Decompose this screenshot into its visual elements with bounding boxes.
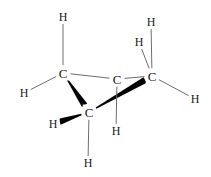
- atom-label-c-right: C: [146, 69, 159, 84]
- bond-cright-hright: [159, 80, 189, 96]
- bond-cright-htop: [151, 29, 152, 68]
- atom-label-c-bottom: C: [83, 105, 96, 120]
- atom-label-h-lower-left: H: [47, 117, 60, 131]
- bond-cright-hinner: [141, 49, 149, 69]
- molecule-diagram: CCCCHHHHHHHH: [0, 0, 211, 177]
- bond-cmiddle-cright: [125, 77, 144, 79]
- bond-layer: [0, 0, 211, 177]
- atom-label-h-right: H: [189, 92, 202, 106]
- bond-cbottom-hlower: [59, 114, 82, 125]
- atom-label-h-inner: H: [133, 35, 146, 49]
- atom-label-h-top-right: H: [145, 15, 158, 29]
- atom-label-h-bottom: H: [82, 156, 95, 170]
- bond-cmiddle-hlowermid: [116, 87, 117, 124]
- bond-cleft-cbottom: [67, 79, 87, 107]
- atom-label-h-top-left: H: [57, 10, 70, 24]
- atom-label-c-left: C: [57, 66, 70, 81]
- bond-cbottom-hbottom: [88, 120, 89, 156]
- atom-label-c-middle: C: [111, 72, 124, 87]
- atom-label-h-left: H: [18, 86, 31, 100]
- atom-label-h-lower-mid: H: [110, 124, 123, 138]
- bond-cleft-cmiddle: [71, 74, 109, 78]
- bond-cleft-hleft: [30, 77, 56, 90]
